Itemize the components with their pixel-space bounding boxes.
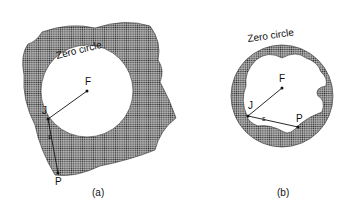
- label-s-a: s: [48, 133, 52, 140]
- point-F-b: [281, 87, 284, 90]
- point-J-b: [247, 115, 250, 118]
- zero-circle-label-b: Zero circle: [247, 27, 295, 44]
- figure-b: Zero circle F J s P (b): [231, 27, 333, 198]
- label-P-a: P: [55, 176, 62, 187]
- point-P-b: [297, 126, 300, 129]
- point-F-a: [86, 90, 89, 93]
- label-J-b: J: [248, 100, 253, 111]
- point-J-a: [47, 118, 50, 121]
- label-s-b: s: [262, 115, 266, 122]
- label-J-a: J: [42, 105, 47, 116]
- point-P-a: [57, 172, 60, 175]
- label-F-b: F: [279, 73, 285, 84]
- label-P-b: P: [296, 113, 303, 124]
- diagram-canvas: Zero circle F J s P (a) Zero circle F J …: [0, 0, 345, 209]
- caption-b: (b): [277, 187, 289, 198]
- caption-a: (a): [92, 187, 104, 198]
- figure-a: Zero circle F J s P (a): [23, 22, 176, 198]
- label-F-a: F: [85, 76, 91, 87]
